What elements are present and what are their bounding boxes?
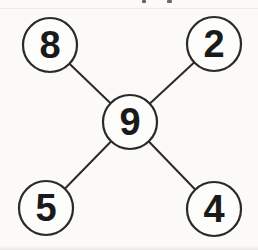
scan-artifact-line — [0, 8, 258, 9]
node-top-right: 2 — [187, 17, 241, 71]
cutoff-text-mark-0 — [142, 0, 146, 3]
node-center: 9 — [103, 95, 157, 149]
node-value-top-right: 2 — [203, 23, 224, 65]
node-value-top-left: 8 — [39, 24, 60, 66]
node-bottom-right: 4 — [187, 182, 241, 236]
node-value-center: 9 — [119, 101, 140, 143]
node-value-bottom-right: 4 — [203, 188, 224, 230]
cutoff-text-mark-1 — [167, 0, 172, 3]
node-value-bottom-left: 5 — [35, 187, 56, 229]
number-web-diagram: 82954 — [0, 0, 258, 250]
node-bottom-left: 5 — [19, 181, 73, 235]
node-top-left: 8 — [23, 18, 77, 72]
worksheet-area: 82954 — [0, 0, 258, 250]
scan-artifact-shadow — [0, 246, 258, 250]
